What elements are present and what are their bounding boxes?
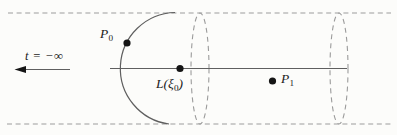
point-p0-marker	[123, 39, 130, 46]
cylinder-diagram: t = −∞ P0 L(ξ0) P1	[0, 0, 397, 135]
label-p1: P1	[281, 72, 294, 86]
label-p1-base: P	[281, 71, 289, 86]
label-p0-base: P	[100, 26, 108, 41]
point-p1-marker	[269, 77, 276, 84]
point-lxi0-marker	[176, 65, 183, 72]
label-p1-subscript: 1	[290, 78, 295, 88]
label-t-minus-infinity: t = −∞	[25, 50, 64, 63]
label-l-xi0-post: )	[178, 76, 183, 91]
label-l-xi0-pre: L(ξ	[156, 76, 174, 91]
label-t-minus-infinity-text: t = −∞	[25, 49, 64, 63]
label-p0-subscript: 0	[109, 33, 114, 43]
diagram-canvas	[0, 0, 397, 135]
label-l-xi0: L(ξ0)	[156, 77, 183, 91]
label-p0: P0	[100, 27, 113, 41]
label-l-xi0-subscript: 0	[174, 83, 179, 93]
time-arrow-head-icon	[15, 66, 27, 73]
